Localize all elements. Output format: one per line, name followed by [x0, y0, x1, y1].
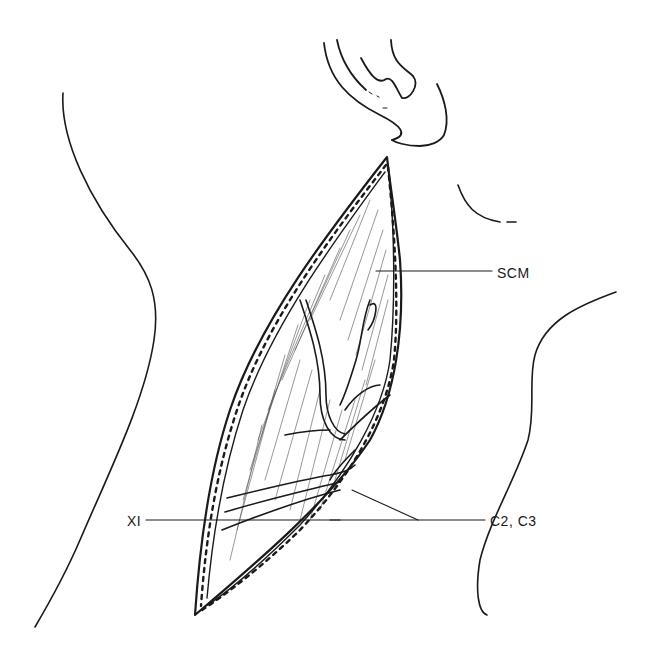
label-scm: SCM — [497, 266, 530, 280]
c2c3-leader-line-upper — [352, 490, 418, 520]
label-xi: XI — [127, 514, 141, 528]
ear-outline — [324, 40, 447, 146]
jaw-angle-outline — [458, 185, 500, 222]
incision-wound — [195, 157, 401, 615]
label-c2-c3: C2, C3 — [490, 514, 537, 528]
sternocleidomastoid-muscle — [230, 200, 388, 560]
neck-outline-left — [35, 93, 156, 627]
anatomical-illustration — [0, 0, 649, 660]
neck-outline-right — [478, 292, 616, 615]
